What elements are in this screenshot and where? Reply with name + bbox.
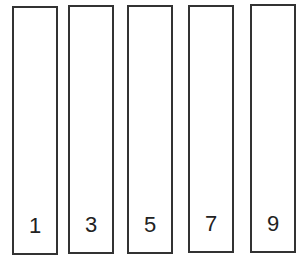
box-5: 5 [127,5,173,254]
box-label: 5 [129,212,171,238]
box-label: 3 [70,212,112,238]
box-7: 7 [188,5,234,253]
box-label: 7 [190,211,232,237]
box-1: 1 [12,6,58,255]
box-label: 9 [252,211,294,237]
box-label: 1 [14,213,56,239]
box-9: 9 [250,4,296,253]
box-3: 3 [68,5,114,254]
